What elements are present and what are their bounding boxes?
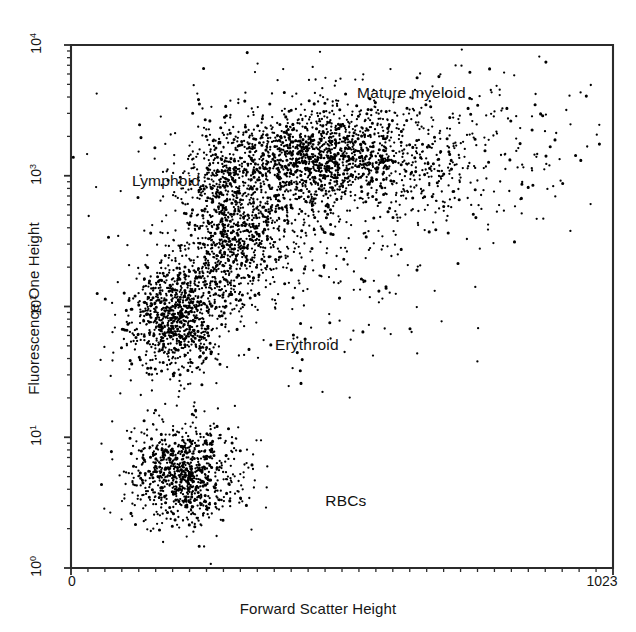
annotation-erythroid: Erythroid [275, 336, 339, 354]
y-axis-tick-label-10e4: 104 [28, 17, 45, 69]
annotation-lymphoid: Lymphoid [132, 172, 200, 190]
y-axis-tick-label-10e2: 102 [28, 279, 45, 331]
plot-background [0, 0, 636, 632]
x-axis-max-label: 1023 [572, 573, 632, 589]
annotation-rbcs: RBCs [325, 492, 366, 510]
y-axis-tick-label-10e0: 100 [28, 540, 45, 592]
y-axis-tick-label-10e3: 103 [28, 148, 45, 200]
y-axis-tick-label-10e1: 101 [28, 410, 45, 462]
x-axis-min-label: 0 [52, 573, 92, 589]
flow-cytometry-dot-plot: Fluorescence One Height Forward Scatter … [0, 0, 636, 632]
annotation-mature-myeloid: Mature myeloid [357, 84, 466, 102]
scatter-plot-canvas [0, 0, 636, 632]
x-axis-title: Forward Scatter Height [0, 600, 636, 617]
